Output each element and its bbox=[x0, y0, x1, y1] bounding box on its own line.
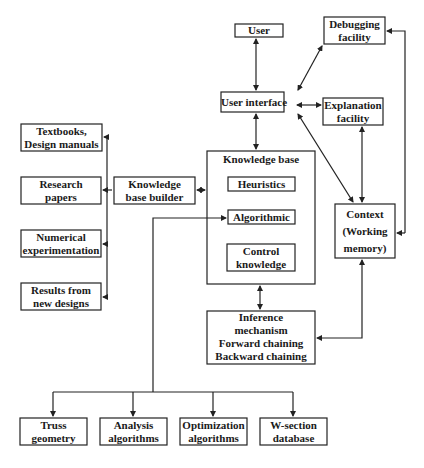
control-knowledge-label: Controlknowledge bbox=[227, 245, 295, 271]
optimization-label: Optimizationalgorithms bbox=[180, 419, 247, 445]
inference-label: InferencemechanismForward chainingBackwa… bbox=[207, 311, 315, 363]
algorithmic-label: Algorithmic bbox=[228, 211, 295, 224]
knowledge-base-label: Knowledge base bbox=[207, 153, 315, 166]
textbooks-label: Textbooks,Design manuals bbox=[21, 125, 102, 151]
heuristics-label: Heuristics bbox=[228, 178, 295, 191]
user-interface-label: User interface bbox=[221, 96, 284, 109]
analysis-label: Analysisalgorithms bbox=[100, 419, 167, 445]
user-label: User bbox=[235, 24, 283, 37]
research-label: Researchpapers bbox=[21, 178, 101, 204]
explanation-label: Explanationfacility bbox=[323, 99, 383, 125]
context-inference-arrow bbox=[317, 260, 362, 338]
debug-context-arrow bbox=[387, 31, 405, 233]
kb-builder-label: Knowledgebase builder bbox=[114, 178, 195, 204]
results-label: Results fromnew designs bbox=[21, 284, 101, 310]
context-label: Context(Workingmemory) bbox=[335, 206, 395, 257]
debugging-label: Debuggingfacility bbox=[324, 18, 385, 44]
numerical-label: Numericalexperimentation bbox=[21, 231, 101, 257]
ui-debug-arrow bbox=[298, 46, 322, 90]
truss-label: Trussgeometry bbox=[20, 419, 87, 445]
wsection-label: W-sectiondatabase bbox=[260, 419, 327, 445]
